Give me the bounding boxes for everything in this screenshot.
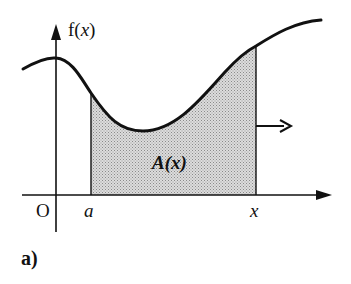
x-axis-arrowhead-icon <box>316 190 332 200</box>
origin-label: O <box>36 200 50 221</box>
area-label: A(x) <box>151 152 187 174</box>
upper-bound-label: x <box>249 200 259 221</box>
y-axis-label: f(x) <box>68 19 95 41</box>
lower-bound-label: a <box>84 200 94 221</box>
panel-label: a) <box>21 247 38 270</box>
area-function-diagram: f(x) O a x A(x) a) <box>0 0 351 284</box>
y-axis-arrowhead-icon <box>51 24 61 40</box>
